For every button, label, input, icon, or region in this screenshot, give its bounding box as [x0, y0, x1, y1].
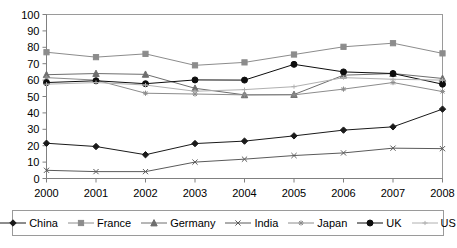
plot-area: 0102030405060708090100 20002001200220032… [0, 0, 457, 205]
y-tick-label: 40 [27, 107, 39, 119]
data-point [192, 63, 197, 68]
legend-marker [299, 220, 304, 225]
data-point [439, 106, 445, 112]
legend-marker [422, 221, 427, 225]
y-tick-label: 80 [27, 41, 39, 53]
legend-item-germany[interactable]: Germany [136, 217, 220, 229]
data-point [390, 41, 395, 46]
data-point [93, 143, 99, 149]
data-point [241, 138, 247, 144]
legend-marker [78, 220, 83, 225]
data-point [143, 91, 148, 96]
data-point [242, 77, 248, 83]
legend-label: Japan [317, 218, 347, 229]
legend-label: China [29, 218, 58, 229]
data-point [44, 50, 49, 55]
asterisk-marker-icon [288, 217, 314, 229]
y-tick-label: 50 [27, 91, 39, 103]
cross-marker-icon [225, 217, 251, 229]
x-tick-label: 2000 [34, 187, 58, 199]
x-tick-label: 2006 [331, 187, 355, 199]
series-france [44, 41, 445, 68]
y-axis-labels: 0102030405060708090100 [21, 9, 39, 185]
series-line [47, 148, 443, 171]
data-point [242, 88, 247, 92]
legend-label: India [254, 218, 278, 229]
data-point [143, 51, 148, 56]
y-tick-label: 90 [27, 25, 39, 37]
x-tick-label: 2005 [282, 187, 306, 199]
x-tick-label: 2007 [381, 187, 405, 199]
y-tick-label: 100 [21, 9, 39, 21]
data-point [142, 152, 148, 158]
legend-label: UK [386, 218, 401, 229]
series-line [47, 109, 443, 155]
y-tick-label: 60 [27, 74, 39, 86]
data-point [93, 55, 98, 60]
data-point [291, 61, 297, 67]
line-marker-icon [412, 217, 438, 229]
legend-marker [367, 220, 373, 226]
legend-item-france[interactable]: France [63, 217, 136, 229]
data-point [341, 87, 346, 92]
data-point [192, 77, 198, 83]
square-marker-icon [68, 217, 94, 229]
x-axis-ticks [47, 179, 443, 183]
circle-marker-icon [357, 217, 383, 229]
legend-item-us[interactable]: US [407, 217, 457, 229]
legend-item-china[interactable]: China [0, 217, 63, 229]
diamond-marker-icon [0, 217, 26, 229]
data-point [340, 127, 346, 133]
legend-item-japan[interactable]: Japan [283, 217, 352, 229]
data-point [291, 85, 296, 89]
x-tick-label: 2002 [133, 187, 157, 199]
legend-marker [10, 220, 16, 226]
data-point [291, 92, 296, 97]
data-point [291, 52, 296, 57]
data-point [390, 71, 396, 77]
y-tick-label: 0 [33, 173, 39, 185]
series-layer [43, 41, 445, 175]
y-axis-ticks [43, 15, 47, 179]
x-tick-label: 2001 [84, 187, 108, 199]
legend-item-india[interactable]: India [220, 217, 283, 229]
legend-label: France [97, 218, 131, 229]
legend-label: US [441, 218, 456, 229]
chart-legend: ChinaFranceGermanyIndiaJapanUKUS [12, 210, 444, 236]
chart-svg: 0102030405060708090100 20002001200220032… [0, 0, 457, 205]
y-tick-label: 20 [27, 140, 39, 152]
y-tick-label: 10 [27, 156, 39, 168]
data-point [440, 51, 445, 56]
legend-label: Germany [170, 218, 215, 229]
data-point [390, 124, 396, 130]
x-tick-label: 2008 [430, 187, 454, 199]
data-point [192, 140, 198, 146]
line-chart: 0102030405060708090100 20002001200220032… [0, 0, 457, 248]
x-tick-label: 2003 [183, 187, 207, 199]
data-point [341, 69, 347, 75]
y-tick-label: 30 [27, 123, 39, 135]
x-axis-labels: 200020012002200320042005200620072008 [34, 187, 454, 199]
data-point [440, 89, 445, 94]
data-point [291, 133, 297, 139]
x-tick-label: 2004 [232, 187, 256, 199]
triangle-marker-icon [141, 217, 167, 229]
series-china [43, 106, 445, 158]
data-point [242, 60, 247, 65]
y-tick-label: 70 [27, 58, 39, 70]
series-india [44, 146, 445, 175]
data-point [341, 44, 346, 49]
legend-item-uk[interactable]: UK [352, 217, 406, 229]
data-point [242, 92, 247, 97]
